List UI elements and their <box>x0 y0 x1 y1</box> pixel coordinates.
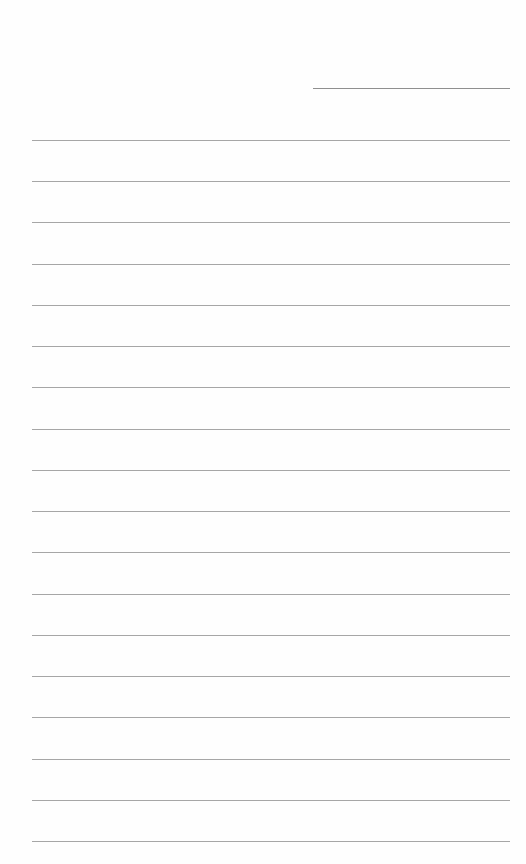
ruled-line[interactable] <box>32 140 510 141</box>
ruled-line[interactable] <box>32 470 510 471</box>
lined-paper-page <box>0 0 526 864</box>
ruled-line[interactable] <box>32 759 510 760</box>
ruled-line[interactable] <box>32 676 510 677</box>
header-write-line[interactable] <box>313 88 510 89</box>
ruled-line[interactable] <box>32 346 510 347</box>
ruled-line[interactable] <box>32 800 510 801</box>
ruled-line[interactable] <box>32 264 510 265</box>
ruled-line[interactable] <box>32 841 510 842</box>
ruled-line[interactable] <box>32 511 510 512</box>
ruled-line[interactable] <box>32 594 510 595</box>
ruled-line[interactable] <box>32 305 510 306</box>
ruled-line[interactable] <box>32 552 510 553</box>
ruled-line[interactable] <box>32 387 510 388</box>
ruled-line[interactable] <box>32 181 510 182</box>
ruled-line[interactable] <box>32 429 510 430</box>
ruled-line[interactable] <box>32 222 510 223</box>
ruled-line[interactable] <box>32 717 510 718</box>
ruled-line[interactable] <box>32 635 510 636</box>
